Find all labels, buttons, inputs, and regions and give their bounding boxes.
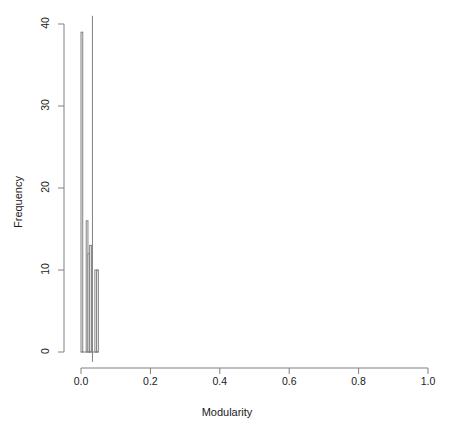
y-tick-label: 0	[39, 336, 51, 366]
y-tick-label: 40	[39, 8, 51, 38]
histogram-plot: Modularity Frequency 0.00.20.40.60.81.0 …	[0, 0, 454, 435]
x-tick-label: 0.0	[61, 375, 101, 387]
x-tick-label: 0.2	[130, 375, 170, 387]
x-tick-label: 0.6	[269, 375, 309, 387]
x-axis-title: Modularity	[0, 406, 454, 418]
x-tick-label: 0.4	[200, 375, 240, 387]
histogram-bar	[90, 245, 92, 352]
x-tick-label: 1.0	[408, 375, 448, 387]
y-tick-label: 20	[39, 172, 51, 202]
x-tick-label: 0.8	[339, 375, 379, 387]
y-axis-title: Frequency	[12, 162, 24, 242]
histogram-bar	[97, 270, 99, 352]
y-tick-label: 10	[39, 254, 51, 284]
chart-canvas	[0, 0, 454, 435]
histogram-bar	[81, 32, 83, 352]
y-tick-label: 30	[39, 90, 51, 120]
